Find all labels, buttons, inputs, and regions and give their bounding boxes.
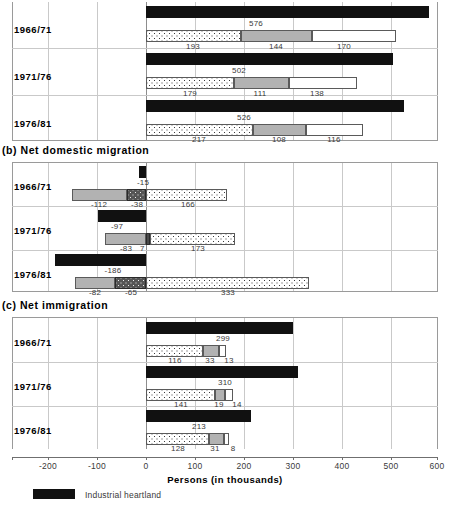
x-tick [342, 457, 343, 460]
bar-black-b-1966-71 [139, 166, 146, 178]
value-label-c-r3-total: 213 [179, 422, 219, 431]
value-label-b-r3-s3: 333 [208, 288, 248, 297]
panel-a: 576 193 144 170 502 179 111 138 526 217 … [0, 0, 450, 143]
bar-seg3-a-1971-76 [289, 77, 357, 89]
value-label-a-r2-s1: 179 [170, 89, 210, 98]
value-label-b-r2-total: -97 [97, 222, 137, 231]
value-label-c-r2-s3: 14 [221, 400, 253, 409]
value-label-a-r1-s3: 170 [324, 42, 364, 51]
row-label-c-1966-71: 1966/71 [14, 337, 52, 348]
value-label-a-r2-s2: 111 [240, 89, 280, 98]
row-separator [12, 95, 438, 96]
gridline-100 [195, 2, 196, 140]
panel-c: (c) Net immigration 299 116 33 13 [0, 298, 450, 453]
value-label-c-r2-total: 310 [205, 378, 245, 387]
value-label-b-r2-s2: 7 [140, 244, 160, 253]
gridline-500 [391, 163, 392, 291]
bar-black-b-1971-76 [98, 210, 146, 222]
bar-black-a-1966-71 [146, 6, 429, 18]
panel-b-plot: -15 -112 -38 166 -97 -83 7 173 -186 -82 … [12, 162, 438, 292]
bar-black-a-1971-76 [146, 53, 393, 65]
value-label-c-r1-total: 299 [203, 334, 243, 343]
row-separator [12, 206, 438, 207]
x-tick [391, 457, 392, 460]
bar-seg2-a-1966-71 [241, 30, 312, 42]
gridline-300 [293, 163, 294, 291]
row-label-b-1976-81: 1976/81 [14, 269, 52, 280]
gridline-600 [437, 163, 438, 291]
gridline-zero [146, 2, 147, 140]
panel-c-title: (c) Net immigration [2, 299, 108, 311]
value-label-b-r1-s2: -38 [117, 200, 157, 209]
row-label-c-1976-81: 1976/81 [14, 425, 52, 436]
row-label-c-1971-76: 1971/76 [14, 381, 52, 392]
gridline--200 [12, 318, 13, 449]
x-tick-label--200: -200 [28, 461, 68, 471]
row-label-a-1971-76: 1971/76 [14, 71, 52, 82]
value-label-c-r3-s1: 128 [158, 444, 198, 453]
x-tick-label-600: 600 [417, 461, 450, 471]
x-tick [195, 457, 196, 460]
x-tick-label-100: 100 [175, 461, 215, 471]
bar-seg3-a-1966-71 [312, 30, 396, 42]
value-label-b-r3-s2: -65 [111, 288, 151, 297]
row-label-b-1971-76: 1971/76 [14, 225, 52, 236]
value-label-b-r3-total: -186 [93, 266, 133, 275]
x-tick [12, 457, 13, 460]
value-label-a-r2-total: 502 [219, 66, 259, 75]
value-label-a-r3-total: 526 [224, 113, 264, 122]
value-label-b-r2-s3: 173 [178, 244, 218, 253]
panel-b-title: (b) Net domestic migration [2, 144, 149, 156]
x-tick [437, 457, 438, 460]
x-tick [146, 457, 147, 460]
bar-black-c-1971-76 [146, 366, 298, 378]
value-label-a-r1-s1: 193 [173, 42, 213, 51]
gridline--50 [97, 2, 98, 140]
x-tick-label-0: 0 [126, 461, 166, 471]
x-tick-label-200: 200 [224, 461, 264, 471]
bar-seg1-a-1966-71 [146, 30, 241, 42]
value-label-b-r1-s3: 166 [168, 200, 208, 209]
population-change-figure: 576 193 144 170 502 179 111 138 526 217 … [0, 0, 450, 507]
row-separator [12, 250, 438, 251]
legend-label-industrial-heartland: Industrial heartland [85, 490, 161, 500]
legend-swatch-black [33, 489, 75, 499]
x-tick [244, 457, 245, 460]
panel-c-plot: 299 116 33 13 310 141 19 14 213 128 31 8 [12, 317, 438, 449]
value-label-c-r1-s1: 116 [155, 356, 195, 365]
value-label-b-r1-s1: -112 [79, 200, 119, 209]
gridline--50 [97, 318, 98, 449]
value-label-a-r1-total: 576 [236, 19, 276, 28]
x-tick-label-500: 500 [371, 461, 411, 471]
gridline-100 [195, 163, 196, 291]
bar-seg1-a-1971-76 [146, 77, 234, 89]
row-label-a-1966-71: 1966/71 [14, 24, 52, 35]
gridline-600 [437, 318, 438, 449]
x-axis-line [12, 457, 438, 458]
gridline-400 [342, 163, 343, 291]
value-label-b-r3-s1: -82 [75, 288, 115, 297]
value-label-c-r3-s3: 8 [217, 444, 249, 453]
gridline-500 [391, 318, 392, 449]
gridline-500 [391, 2, 392, 140]
gridline--200 [12, 2, 13, 140]
gridline-400 [342, 318, 343, 449]
x-tick-label-400: 400 [322, 461, 362, 471]
bar-seg2-a-1971-76 [234, 77, 289, 89]
panel-a-plot: 576 193 144 170 502 179 111 138 526 217 … [12, 2, 438, 141]
bar-black-c-1976-81 [146, 410, 251, 422]
gridline-zero [146, 318, 147, 449]
value-label-a-r1-s2: 144 [256, 42, 296, 51]
x-tick-label--100: -100 [77, 461, 117, 471]
value-label-c-r1-s3: 13 [214, 356, 244, 365]
row-label-b-1966-71: 1966/71 [14, 181, 52, 192]
bar-black-a-1976-81 [146, 100, 404, 112]
value-label-b-r1-total: -15 [123, 178, 163, 187]
gridline-300 [293, 318, 294, 449]
gridline-200 [244, 163, 245, 291]
gridline-300 [293, 2, 294, 140]
x-tick [97, 457, 98, 460]
row-separator [12, 48, 438, 49]
gridline-400 [342, 2, 343, 140]
x-tick [293, 457, 294, 460]
